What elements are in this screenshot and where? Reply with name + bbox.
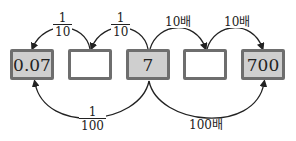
label-ten-times-left: 10배 xyxy=(165,16,191,28)
box-3: 7 xyxy=(126,49,170,80)
box-2-blank[interactable] xyxy=(68,49,112,80)
label-one-tenth-left: 110 xyxy=(53,12,72,38)
box-5: 700 xyxy=(241,49,285,80)
arrow-box4-to-box5 xyxy=(207,28,262,49)
arrow-box3-to-box5 xyxy=(149,81,264,118)
arrow-box3-to-box4 xyxy=(150,28,205,49)
box-1: 0.07 xyxy=(10,49,54,80)
label-ten-times-right: 10배 xyxy=(224,16,250,28)
label-one-hundredth: 1100 xyxy=(79,106,106,132)
box-4-blank[interactable] xyxy=(183,49,227,80)
label-hundred-times: 100배 xyxy=(189,119,223,131)
box-1-value: 0.07 xyxy=(13,55,51,75)
label-one-tenth-right: 110 xyxy=(111,12,130,38)
box-5-value: 700 xyxy=(247,55,279,75)
box-3-value: 7 xyxy=(143,55,154,75)
